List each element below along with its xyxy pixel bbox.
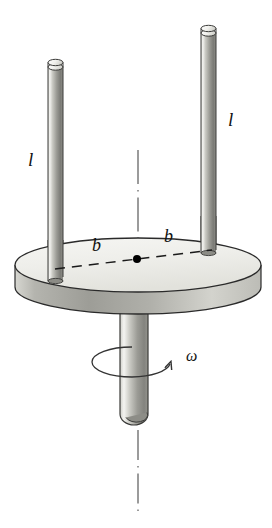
label-rod-left-length: l bbox=[28, 150, 33, 169]
shaft bbox=[120, 300, 148, 425]
label-rod-right-length: l bbox=[228, 110, 233, 129]
label-radius-right: b bbox=[164, 227, 173, 245]
label-radius-left: b bbox=[92, 236, 101, 254]
label-angular-velocity: ω bbox=[186, 348, 197, 364]
figure-canvas bbox=[0, 0, 272, 528]
center-point bbox=[133, 255, 141, 263]
rod-left-base bbox=[48, 240, 63, 284]
rod-right-base bbox=[201, 216, 216, 256]
rotating-disk-figure: l l b b ω bbox=[0, 0, 272, 528]
